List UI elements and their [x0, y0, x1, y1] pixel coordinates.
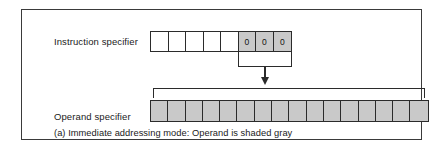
- instruction-bit-cell: [186, 32, 204, 51]
- operand-bit-cell: [410, 101, 427, 121]
- figure-caption: (a) Immediate addressing mode: Operand i…: [54, 128, 292, 138]
- instruction-bit-cell: [151, 32, 169, 51]
- operand-bit-cell: [168, 101, 185, 121]
- operand-specifier-field: [150, 100, 429, 122]
- operand-bit-cell: [203, 101, 220, 121]
- operand-bit-cell: [393, 101, 410, 121]
- instruction-mode-bit-cell: 0: [274, 32, 292, 51]
- mode-to-operand-arrow-icon: [261, 77, 269, 85]
- figure-frame: Instruction specifier 0 0 0 Operand spec…: [21, 9, 422, 140]
- instruction-bit-cell: [204, 32, 222, 51]
- operand-bit-cell: [255, 101, 272, 121]
- operand-span-bracket: [153, 88, 425, 98]
- operand-bit-cell: [324, 101, 341, 121]
- instruction-mode-bit-cell: 0: [239, 32, 257, 51]
- operand-bit-cell: [359, 101, 376, 121]
- instruction-mode-bit-cell: 0: [256, 32, 274, 51]
- operand-bit-cell: [220, 101, 237, 121]
- instruction-specifier-field: 0 0 0: [150, 31, 292, 52]
- addressing-mode-bracket: [238, 52, 292, 67]
- operand-bit-cell: [186, 101, 203, 121]
- operand-bit-cell: [341, 101, 358, 121]
- operand-bit-cell: [376, 101, 393, 121]
- operand-bit-cell: [237, 101, 254, 121]
- instruction-bit-cell: [221, 32, 239, 51]
- operand-bit-cell: [307, 101, 324, 121]
- operand-bit-cell: [272, 101, 289, 121]
- operand-specifier-label: Operand specifier: [54, 111, 131, 122]
- addressing-mode-figure: Instruction specifier 0 0 0 Operand spec…: [0, 0, 446, 150]
- operand-bit-cell: [289, 101, 306, 121]
- instruction-bit-cell: [169, 32, 187, 51]
- operand-bit-cell: [151, 101, 168, 121]
- instruction-specifier-label: Instruction specifier: [54, 36, 138, 47]
